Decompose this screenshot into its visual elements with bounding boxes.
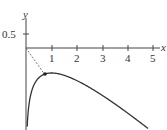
y-tick-label: 0.5	[2, 28, 16, 40]
y-axis-label: y	[22, 8, 28, 20]
x-tick-label: 3	[100, 52, 106, 64]
x-axis-label: x	[160, 41, 166, 53]
curve	[27, 73, 148, 128]
x-tick-label: 1	[49, 52, 55, 64]
dashed-line	[26, 48, 45, 75]
x-tick-label: 4	[125, 52, 131, 64]
chart: 0.5 y 1 2 3 4 5 x	[0, 0, 167, 130]
x-tick-label: 5	[150, 52, 156, 64]
x-tick-label: 2	[74, 52, 80, 64]
point-marker	[43, 72, 47, 76]
